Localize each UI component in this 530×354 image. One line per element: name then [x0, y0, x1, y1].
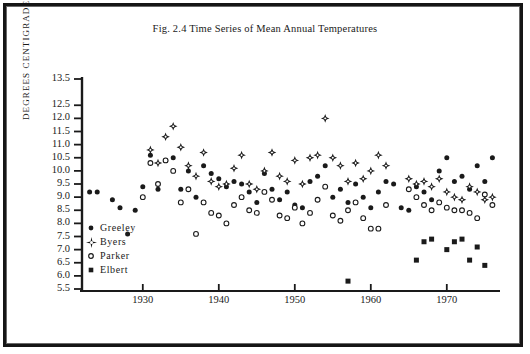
y-tick-label: 8.0: [36, 216, 70, 227]
figure-page: Fig. 2.4 Time Series of Mean Annual Temp…: [0, 0, 530, 354]
filled-square-icon: [86, 265, 100, 275]
x-tick-label: 1950: [275, 294, 315, 305]
legend-label-elbert: Elbert: [100, 264, 128, 275]
y-tick-label: 10.5: [36, 151, 70, 162]
x-tick-label: 1960: [351, 294, 391, 305]
y-axis-label: DEGREES CENTIGRADE: [21, 0, 31, 120]
legend-label-byers: Byers: [100, 236, 126, 247]
y-tick-label: 9.5: [36, 177, 70, 188]
y-tick-label: 7.5: [36, 230, 70, 241]
legend-item-greeley: Greeley: [86, 220, 136, 234]
legend-label-greeley: Greeley: [100, 222, 136, 233]
x-tick-label: 1970: [427, 294, 467, 305]
y-tick-label: 12.5: [36, 98, 70, 109]
star-icon: [86, 237, 100, 248]
y-tick-label: 8.5: [36, 203, 70, 214]
open-circle-icon: [86, 251, 100, 261]
y-tick-label: 6.0: [36, 269, 70, 280]
filled-circle-icon: [86, 223, 100, 233]
legend-item-elbert: Elbert: [86, 262, 136, 276]
y-tick-label: 13.5: [36, 72, 70, 83]
legend-item-parker: Parker: [86, 248, 136, 262]
y-tick-label: 11.5: [36, 125, 70, 136]
y-tick-label: 6.5: [36, 256, 70, 267]
page-title: Fig. 2.4 Time Series of Mean Annual Temp…: [0, 23, 530, 34]
x-tick-label: 1930: [123, 294, 163, 305]
x-tick-label: 1940: [199, 294, 239, 305]
y-tick-label: 9.0: [36, 190, 70, 201]
y-tick-label: 11.0: [36, 138, 70, 149]
legend: Greeley Byers Parker Elbert: [86, 220, 136, 276]
y-tick-label: 10.0: [36, 164, 70, 175]
legend-label-parker: Parker: [100, 250, 130, 261]
legend-item-byers: Byers: [86, 234, 136, 248]
y-tick-label: 5.5: [36, 282, 70, 293]
y-tick-label: 12.0: [36, 111, 70, 122]
y-tick-label: 7.0: [36, 243, 70, 254]
